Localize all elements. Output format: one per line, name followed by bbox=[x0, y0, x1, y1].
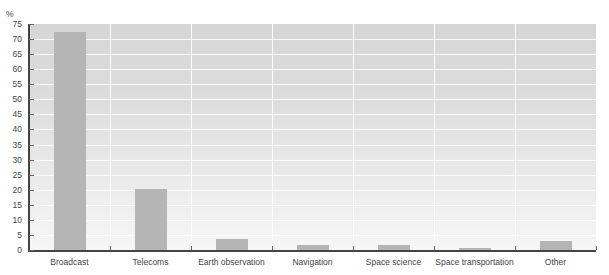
x-tick bbox=[596, 246, 597, 250]
y-tick bbox=[29, 84, 34, 85]
gridline-horizontal bbox=[29, 129, 596, 130]
bar-chart: % 051015202530354045505560657075 Broadca… bbox=[0, 0, 609, 275]
gridline-horizontal bbox=[29, 84, 596, 85]
y-tick-label: 55 bbox=[2, 79, 22, 89]
gridline-vertical bbox=[434, 24, 435, 250]
y-tick bbox=[29, 235, 34, 236]
x-tick bbox=[272, 246, 273, 250]
y-tick-label: 45 bbox=[2, 109, 22, 119]
x-tick bbox=[434, 246, 435, 250]
y-tick-label: 25 bbox=[2, 170, 22, 180]
gridline-horizontal bbox=[29, 54, 596, 55]
gridline-horizontal bbox=[29, 39, 596, 40]
y-tick-label: 70 bbox=[2, 34, 22, 44]
gridline-horizontal bbox=[29, 235, 596, 236]
y-tick-label: 35 bbox=[2, 140, 22, 150]
gridline-vertical bbox=[353, 24, 354, 250]
y-tick bbox=[29, 175, 34, 176]
bar-broadcast bbox=[54, 32, 86, 250]
y-tick-label: 20 bbox=[2, 185, 22, 195]
y-tick bbox=[29, 24, 34, 25]
gridline-vertical bbox=[110, 24, 111, 250]
gridline-horizontal bbox=[29, 175, 596, 176]
gridline-vertical bbox=[191, 24, 192, 250]
y-tick bbox=[29, 190, 34, 191]
x-category-label: Telecoms bbox=[133, 257, 169, 267]
x-category-label: Other bbox=[545, 257, 566, 267]
x-category-label: Space science bbox=[366, 257, 421, 267]
y-tick-label: 10 bbox=[2, 215, 22, 225]
x-tick bbox=[353, 246, 354, 250]
y-tick-label: 0 bbox=[2, 245, 22, 255]
y-tick-label: 15 bbox=[2, 200, 22, 210]
y-tick-label: 75 bbox=[2, 19, 22, 29]
gridline-horizontal bbox=[29, 145, 596, 146]
y-tick bbox=[29, 54, 34, 55]
bar-telecoms bbox=[135, 189, 167, 250]
y-tick-label: 30 bbox=[2, 155, 22, 165]
y-tick bbox=[29, 160, 34, 161]
gridline-horizontal bbox=[29, 220, 596, 221]
plot-area bbox=[29, 24, 596, 250]
y-tick bbox=[29, 39, 34, 40]
y-tick-label: 5 bbox=[2, 230, 22, 240]
x-tick bbox=[191, 246, 192, 250]
x-tick bbox=[110, 246, 111, 250]
gridline-horizontal bbox=[29, 190, 596, 191]
bar-earth-observation bbox=[216, 239, 248, 250]
gridline-vertical bbox=[515, 24, 516, 250]
y-tick bbox=[29, 250, 34, 251]
gridline-horizontal bbox=[29, 99, 596, 100]
gridline-vertical bbox=[272, 24, 273, 250]
y-axis-unit: % bbox=[6, 9, 14, 19]
y-axis bbox=[28, 24, 30, 251]
x-category-label: Broadcast bbox=[50, 257, 88, 267]
y-tick bbox=[29, 220, 34, 221]
gridline-horizontal bbox=[29, 205, 596, 206]
gridline-horizontal bbox=[29, 114, 596, 115]
bar-other bbox=[540, 241, 572, 250]
x-category-label: Earth observation bbox=[198, 257, 265, 267]
x-category-label: Space transportation bbox=[435, 257, 513, 267]
y-tick bbox=[29, 69, 34, 70]
y-tick bbox=[29, 129, 34, 130]
gridline-horizontal bbox=[29, 69, 596, 70]
y-tick bbox=[29, 145, 34, 146]
y-tick bbox=[29, 114, 34, 115]
y-tick bbox=[29, 99, 34, 100]
y-tick bbox=[29, 205, 34, 206]
x-axis bbox=[28, 250, 596, 252]
y-tick-label: 60 bbox=[2, 64, 22, 74]
gridline-horizontal bbox=[29, 160, 596, 161]
x-tick bbox=[515, 246, 516, 250]
y-tick-label: 40 bbox=[2, 124, 22, 134]
y-tick-label: 65 bbox=[2, 49, 22, 59]
y-tick-label: 50 bbox=[2, 94, 22, 104]
x-category-label: Navigation bbox=[292, 257, 332, 267]
